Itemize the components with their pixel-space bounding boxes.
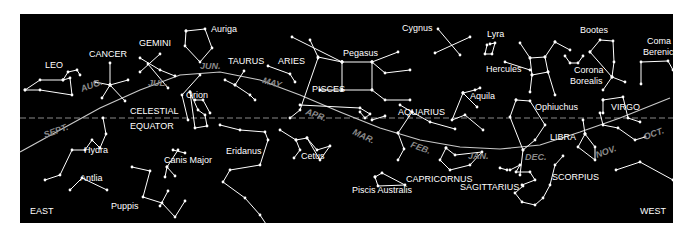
star-icon	[515, 99, 518, 102]
star-icon	[624, 81, 627, 84]
equator-label-line2: EQUATOR	[130, 121, 174, 131]
constellation-label: Coma	[647, 36, 671, 46]
star-icon	[62, 79, 65, 82]
star-icon	[544, 124, 547, 127]
star-icon	[569, 49, 572, 52]
star-icon	[259, 214, 262, 217]
star-icon	[299, 104, 302, 107]
star-icon	[131, 166, 134, 169]
star-icon	[449, 169, 452, 172]
direction-west: WEST	[640, 206, 667, 216]
star-icon	[519, 42, 522, 45]
star-icon	[204, 28, 207, 31]
star-icon	[667, 60, 670, 63]
star-icon	[594, 159, 597, 162]
star-icon	[364, 117, 367, 120]
star-icon	[529, 171, 532, 174]
star-icon	[159, 69, 162, 72]
star-icon	[506, 169, 509, 172]
star-icon	[289, 73, 292, 76]
star-icon	[267, 65, 270, 68]
star-icon	[79, 74, 82, 77]
star-icon	[397, 159, 400, 162]
star-icon	[24, 89, 27, 92]
star-icon	[254, 99, 257, 102]
star-icon	[384, 115, 387, 118]
star-icon	[102, 117, 105, 120]
star-icon	[554, 41, 557, 44]
star-icon	[454, 128, 457, 131]
star-icon	[139, 71, 142, 74]
constellation-label: SCORPIUS	[552, 172, 599, 182]
star-icon	[289, 117, 292, 120]
constellation-label: Ophiuchus	[535, 102, 579, 112]
star-icon	[437, 28, 440, 31]
star-icon	[476, 106, 479, 109]
constellation-label: Canis Major	[164, 155, 212, 165]
constellation-label: PISCES	[312, 84, 345, 94]
star-icon	[101, 97, 104, 100]
star-icon	[529, 91, 532, 94]
star-icon	[639, 161, 642, 164]
star-icon	[267, 139, 270, 142]
star-icon	[522, 149, 525, 152]
constellation-label: Cygnus	[402, 23, 433, 33]
star-icon	[397, 132, 400, 135]
star-chart: LEOCANCERGEMINIAurigaTAURUSARIESPegasusP…	[0, 0, 693, 235]
star-icon	[499, 167, 502, 170]
star-icon	[69, 189, 72, 192]
star-icon	[264, 131, 267, 134]
star-icon	[209, 112, 212, 115]
star-icon	[185, 30, 188, 33]
star-icon	[577, 146, 580, 149]
constellation-label: Cetus	[301, 151, 325, 161]
star-icon	[534, 139, 537, 142]
star-icon	[509, 116, 512, 119]
star-icon	[76, 69, 79, 72]
star-icon	[672, 179, 675, 182]
constellation-label: Borealis	[570, 76, 603, 86]
star-icon	[582, 55, 585, 58]
star-icon	[184, 152, 187, 155]
star-icon	[640, 61, 643, 64]
star-icon	[234, 84, 237, 87]
star-icon	[187, 119, 190, 122]
star-icon	[489, 43, 492, 46]
star-icon	[584, 133, 587, 136]
star-icon	[434, 52, 437, 55]
constellation-label: TAURUS	[228, 56, 264, 66]
star-icon	[194, 127, 197, 130]
constellation-label: AQUARIUS	[398, 107, 445, 117]
star-icon	[147, 63, 150, 66]
star-icon	[71, 94, 74, 97]
star-icon	[142, 196, 145, 199]
star-icon	[329, 145, 332, 148]
star-icon	[184, 45, 187, 48]
star-icon	[613, 61, 616, 64]
star-icon	[521, 201, 524, 204]
constellation-label: LIBRA	[550, 132, 576, 142]
star-icon	[615, 169, 618, 172]
star-icon	[429, 121, 432, 124]
star-icon	[149, 170, 152, 173]
star-icon	[174, 216, 177, 219]
star-icon	[259, 164, 262, 167]
star-icon	[204, 114, 207, 117]
star-icon	[295, 139, 298, 142]
star-icon	[582, 119, 585, 122]
star-icon	[403, 148, 406, 151]
constellation-label: SAGITTARIUS	[460, 182, 519, 192]
star-icon	[451, 119, 454, 122]
star-icon	[454, 154, 457, 157]
star-icon	[486, 44, 489, 47]
star-icon	[564, 55, 567, 58]
star-icon	[91, 139, 94, 142]
star-icon	[562, 155, 565, 158]
constellation-label: Aquila	[470, 91, 495, 101]
star-icon	[482, 129, 485, 132]
star-icon	[462, 92, 465, 95]
star-icon	[611, 76, 614, 79]
star-icon	[459, 54, 462, 57]
star-icon	[269, 229, 272, 232]
equator-label-line1: CELESTIAL	[130, 106, 179, 116]
